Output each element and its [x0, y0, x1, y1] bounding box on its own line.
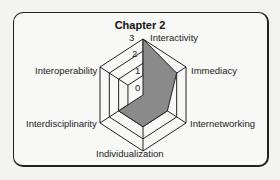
axis-label-interoperability: Interoperability: [35, 65, 97, 76]
axis-label-individualization: Individualization: [96, 148, 164, 159]
tick-3: 3: [129, 32, 134, 43]
axis-label-interactivity: Interactivity: [150, 32, 198, 43]
tick-1: 1: [135, 65, 140, 76]
axis-label-immediacy: Immediacy: [191, 65, 237, 76]
axis-label-interdisciplinarity: Interdisciplinarity: [26, 118, 97, 129]
data-polygon: [119, 39, 177, 127]
tick-0: 0: [135, 82, 140, 93]
axis-label-internetworking: Internetworking: [190, 118, 255, 129]
tick-2: 2: [132, 48, 137, 59]
